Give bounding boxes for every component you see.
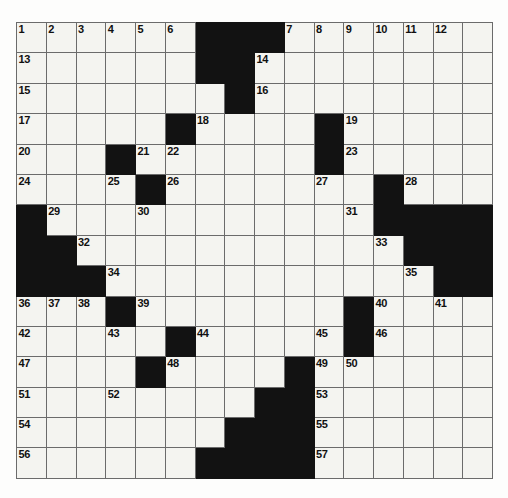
crossword-cell[interactable]: [255, 235, 285, 265]
crossword-cell[interactable]: [463, 23, 493, 53]
crossword-cell[interactable]: 43: [106, 326, 136, 356]
crossword-cell[interactable]: [195, 387, 225, 417]
crossword-grid[interactable]: 1234567891011121314151617181920212223242…: [16, 22, 493, 479]
crossword-cell[interactable]: 48: [165, 357, 195, 387]
crossword-cell[interactable]: [76, 326, 106, 356]
crossword-cell[interactable]: [46, 174, 76, 204]
crossword-cell[interactable]: [136, 448, 166, 478]
crossword-cell[interactable]: [344, 418, 374, 448]
crossword-cell[interactable]: 23: [344, 144, 374, 174]
crossword-cell[interactable]: [374, 448, 404, 478]
crossword-cell[interactable]: [136, 418, 166, 448]
crossword-cell[interactable]: [255, 144, 285, 174]
crossword-cell[interactable]: [195, 296, 225, 326]
crossword-cell[interactable]: 55: [314, 418, 344, 448]
crossword-cell[interactable]: 35: [403, 266, 433, 296]
crossword-cell[interactable]: [46, 357, 76, 387]
crossword-cell[interactable]: [463, 53, 493, 83]
crossword-cell[interactable]: [195, 144, 225, 174]
crossword-cell[interactable]: [344, 53, 374, 83]
crossword-cell[interactable]: [165, 53, 195, 83]
crossword-cell[interactable]: [225, 296, 255, 326]
crossword-cell[interactable]: [374, 266, 404, 296]
crossword-cell[interactable]: 5: [136, 23, 166, 53]
crossword-cell[interactable]: [195, 174, 225, 204]
crossword-cell[interactable]: [195, 357, 225, 387]
crossword-cell[interactable]: [284, 114, 314, 144]
crossword-cell[interactable]: [314, 296, 344, 326]
crossword-cell[interactable]: 7: [284, 23, 314, 53]
crossword-cell[interactable]: 45: [314, 326, 344, 356]
crossword-cell[interactable]: [403, 357, 433, 387]
crossword-cell[interactable]: 47: [17, 357, 47, 387]
crossword-cell[interactable]: [284, 83, 314, 113]
crossword-cell[interactable]: [76, 174, 106, 204]
crossword-cell[interactable]: [374, 114, 404, 144]
crossword-cell[interactable]: [403, 144, 433, 174]
crossword-cell[interactable]: [314, 83, 344, 113]
crossword-cell[interactable]: [46, 144, 76, 174]
crossword-cell[interactable]: 36: [17, 296, 47, 326]
crossword-cell[interactable]: [403, 448, 433, 478]
crossword-cell[interactable]: [76, 53, 106, 83]
crossword-cell[interactable]: [76, 448, 106, 478]
crossword-cell[interactable]: [46, 114, 76, 144]
crossword-cell[interactable]: [463, 418, 493, 448]
crossword-cell[interactable]: [165, 418, 195, 448]
crossword-cell[interactable]: [344, 387, 374, 417]
crossword-cell[interactable]: [195, 205, 225, 235]
crossword-cell[interactable]: [195, 418, 225, 448]
crossword-cell[interactable]: [255, 357, 285, 387]
crossword-cell[interactable]: 46: [374, 326, 404, 356]
crossword-cell[interactable]: 17: [17, 114, 47, 144]
crossword-cell[interactable]: 42: [17, 326, 47, 356]
crossword-cell[interactable]: 39: [136, 296, 166, 326]
crossword-cell[interactable]: [463, 83, 493, 113]
crossword-cell[interactable]: 12: [433, 23, 463, 53]
crossword-cell[interactable]: [225, 205, 255, 235]
crossword-cell[interactable]: [165, 83, 195, 113]
crossword-cell[interactable]: [255, 326, 285, 356]
crossword-cell[interactable]: 11: [403, 23, 433, 53]
crossword-cell[interactable]: 15: [17, 83, 47, 113]
crossword-cell[interactable]: [165, 296, 195, 326]
crossword-cell[interactable]: [314, 266, 344, 296]
crossword-cell[interactable]: [195, 266, 225, 296]
crossword-cell[interactable]: 49: [314, 357, 344, 387]
crossword-cell[interactable]: [403, 83, 433, 113]
crossword-cell[interactable]: 28: [403, 174, 433, 204]
crossword-cell[interactable]: [46, 326, 76, 356]
crossword-cell[interactable]: 30: [136, 205, 166, 235]
crossword-cell[interactable]: [106, 448, 136, 478]
crossword-cell[interactable]: [344, 235, 374, 265]
crossword-cell[interactable]: [463, 144, 493, 174]
crossword-cell[interactable]: [76, 205, 106, 235]
crossword-cell[interactable]: [255, 205, 285, 235]
crossword-cell[interactable]: [344, 174, 374, 204]
crossword-cell[interactable]: [225, 387, 255, 417]
crossword-cell[interactable]: [344, 448, 374, 478]
crossword-cell[interactable]: [374, 357, 404, 387]
crossword-cell[interactable]: [314, 53, 344, 83]
crossword-cell[interactable]: 4: [106, 23, 136, 53]
crossword-cell[interactable]: 40: [374, 296, 404, 326]
crossword-cell[interactable]: 44: [195, 326, 225, 356]
crossword-cell[interactable]: 22: [165, 144, 195, 174]
crossword-cell[interactable]: [403, 296, 433, 326]
crossword-cell[interactable]: [314, 235, 344, 265]
crossword-cell[interactable]: [195, 235, 225, 265]
crossword-cell[interactable]: [106, 235, 136, 265]
crossword-cell[interactable]: 24: [17, 174, 47, 204]
crossword-cell[interactable]: [433, 448, 463, 478]
crossword-cell[interactable]: [225, 266, 255, 296]
crossword-cell[interactable]: 8: [314, 23, 344, 53]
crossword-cell[interactable]: [165, 266, 195, 296]
crossword-cell[interactable]: 56: [17, 448, 47, 478]
crossword-cell[interactable]: [255, 174, 285, 204]
crossword-cell[interactable]: [165, 205, 195, 235]
crossword-cell[interactable]: 3: [76, 23, 106, 53]
crossword-cell[interactable]: 6: [165, 23, 195, 53]
crossword-cell[interactable]: [106, 357, 136, 387]
crossword-cell[interactable]: [106, 83, 136, 113]
crossword-cell[interactable]: [463, 296, 493, 326]
